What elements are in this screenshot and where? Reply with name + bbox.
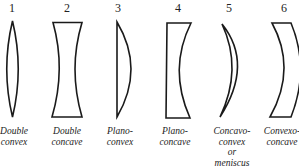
lens-number-3: 3	[108, 1, 128, 15]
label-line: Double	[37, 126, 97, 137]
plano-concave-lens-icon	[166, 23, 191, 118]
label-line: concave	[37, 137, 97, 148]
label-line: concave	[252, 137, 299, 148]
label-line: convex	[90, 137, 150, 148]
lens-number-5: 5	[219, 1, 239, 15]
double-convex-lens-icon	[7, 21, 19, 117]
convexo-concave-lens-icon	[270, 23, 299, 117]
lens-label-plano-convex: Plano- convex	[90, 126, 150, 147]
lens-number-1: 1	[2, 1, 22, 15]
lens-label-convexo-concave: Convexo- concave	[252, 126, 299, 147]
double-concave-lens-icon	[52, 23, 82, 118]
lens-label-double-concave: Double concave	[37, 126, 97, 147]
label-line: Convexo-	[252, 126, 299, 137]
lens-number-6: 6	[274, 1, 294, 15]
lens-number-4: 4	[168, 1, 188, 15]
label-line: meniscus	[202, 158, 262, 167]
plano-convex-lens-icon	[117, 22, 131, 117]
label-line: concave	[145, 137, 205, 148]
lens-number-2: 2	[57, 1, 77, 15]
label-line: Plano-	[90, 126, 150, 137]
meniscus-lens-icon	[220, 24, 238, 117]
label-line: or	[202, 147, 262, 158]
label-line: Plano-	[145, 126, 205, 137]
lens-label-plano-concave: Plano- concave	[145, 126, 205, 147]
